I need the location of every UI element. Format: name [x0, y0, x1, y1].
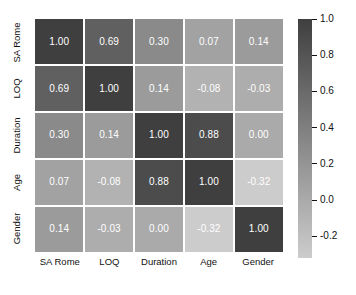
heatmap-cell: -0.03	[235, 66, 283, 111]
heatmap-cell: 0.00	[135, 207, 183, 252]
x-axis-tick-label: Age	[184, 256, 234, 276]
colorbar-tick-mark	[312, 127, 317, 128]
heatmap-cell: 1.00	[85, 66, 133, 111]
heatmap-cell-value: 0.14	[99, 130, 119, 140]
y-axis-tick-label: Age	[0, 159, 33, 206]
y-axis-tick-label: LOQ	[0, 66, 33, 113]
colorbar-tick-label: 0.8	[320, 50, 334, 60]
heatmap-cell: 0.30	[35, 113, 83, 158]
x-axis-tick-label: LOQ	[85, 256, 135, 276]
y-axis-labels: SA Rome LOQ Duration Age Gender	[0, 19, 33, 252]
y-axis-tick-label: Gender	[0, 205, 33, 252]
heatmap-cell: 0.69	[85, 19, 133, 64]
heatmap-cell-value: 0.30	[149, 37, 169, 47]
heatmap-cell: 0.07	[185, 19, 233, 64]
colorbar-tick-label: 1.0	[320, 14, 334, 24]
heatmap-cell: 1.00	[235, 207, 283, 252]
heatmap-cell: -0.32	[235, 160, 283, 205]
heatmap-cell-value: 1.00	[149, 130, 169, 140]
y-axis-tick-label: SA Rome	[0, 19, 33, 66]
colorbar-ticks: 1.00.80.60.40.20.0-0.2	[312, 19, 356, 258]
heatmap-cell: 1.00	[135, 113, 183, 158]
colorbar-tick-label: 0.4	[320, 122, 334, 132]
heatmap-cell-value: 0.30	[49, 130, 69, 140]
heatmap-cell: 0.69	[35, 66, 83, 111]
heatmap-cell: 0.14	[135, 66, 183, 111]
colorbar-tick-mark	[312, 200, 317, 201]
heatmap-cell: 1.00	[185, 160, 233, 205]
heatmap-cell: -0.08	[185, 66, 233, 111]
colorbar-tick-mark	[312, 91, 317, 92]
heatmap-cell-value: 0.88	[149, 177, 169, 187]
heatmap-cell: 0.14	[85, 113, 133, 158]
heatmap-cell: 0.14	[35, 207, 83, 252]
heatmap-cell-value: 1.00	[49, 37, 69, 47]
heatmap-cell: 0.07	[35, 160, 83, 205]
heatmap-cell-value: 0.88	[199, 130, 219, 140]
x-axis-tick-label: Gender	[233, 256, 283, 276]
colorbar-tick-label: 0.6	[320, 86, 334, 96]
heatmap-cell: -0.08	[85, 160, 133, 205]
heatmap-cell-value: 0.07	[199, 37, 219, 47]
x-axis-labels: SA Rome LOQ Duration Age Gender	[35, 256, 283, 276]
colorbar-tick-mark	[312, 236, 317, 237]
heatmap-cell-value: 0.14	[249, 37, 269, 47]
heatmap-cell: 0.88	[185, 113, 233, 158]
colorbar-tick-label: -0.2	[320, 231, 337, 241]
heatmap-cell: 0.30	[135, 19, 183, 64]
colorbar-tick-label: 0.0	[320, 195, 334, 205]
heatmap-cell: 0.14	[235, 19, 283, 64]
x-axis-tick-label: SA Rome	[35, 256, 85, 276]
heatmap-cell-value: 0.07	[49, 177, 69, 187]
heatmap-cell-value: 1.00	[249, 224, 269, 234]
heatmap-cell-value: 1.00	[99, 84, 119, 94]
heatmap-cell-value: 0.14	[49, 224, 69, 234]
heatmap-cell-value: -0.03	[97, 224, 120, 234]
heatmap-cell-value: 0.69	[99, 37, 119, 47]
colorbar-gradient	[298, 19, 312, 258]
y-axis-tick-label: Duration	[0, 112, 33, 159]
heatmap-cell-value: 0.00	[149, 224, 169, 234]
colorbar-tick-mark	[312, 55, 317, 56]
colorbar-tick-mark	[312, 163, 317, 164]
heatmap-cell-value: -0.03	[247, 84, 270, 94]
heatmap-cell: 1.00	[35, 19, 83, 64]
correlation-heatmap-figure: SA Rome LOQ Duration Age Gender 1.000.69…	[0, 0, 356, 295]
heatmap-cell-value: -0.32	[197, 224, 220, 234]
heatmap-cell: 0.00	[235, 113, 283, 158]
heatmap-cell-value: -0.32	[247, 177, 270, 187]
colorbar-tick-mark	[312, 19, 317, 20]
heatmap-cell-value: 0.14	[149, 84, 169, 94]
heatmap-cell: 0.88	[135, 160, 183, 205]
heatmap-cell-value: 1.00	[199, 177, 219, 187]
heatmap-cell: -0.32	[185, 207, 233, 252]
heatmap-cell-value: 0.69	[49, 84, 69, 94]
heatmap-cell-value: -0.08	[97, 177, 120, 187]
heatmap-cell: -0.03	[85, 207, 133, 252]
heatmap-cell-value: 0.00	[249, 130, 269, 140]
heatmap-cell-value: -0.08	[197, 84, 220, 94]
heatmap-grid: 1.000.690.300.070.140.691.000.14-0.08-0.…	[35, 19, 283, 252]
colorbar-legend: 1.00.80.60.40.20.0-0.2	[298, 19, 356, 258]
x-axis-tick-label: Duration	[134, 256, 184, 276]
colorbar-tick-label: 0.2	[320, 158, 334, 168]
